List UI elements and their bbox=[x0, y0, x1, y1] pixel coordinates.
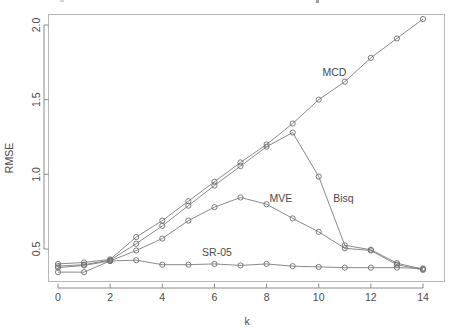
x-tick-label: 6 bbox=[212, 291, 218, 303]
y-tick-label: 2.0 bbox=[30, 18, 42, 33]
rmse-vs-k-line-chart: 0.51.01.52.0 02468101214 MCDBisqMVESR-05… bbox=[0, 0, 453, 331]
x-tick-label: 4 bbox=[159, 291, 165, 303]
y-tick-label: 0.5 bbox=[30, 242, 42, 257]
chart-figure: 0.51.01.52.0 02468101214 MCDBisqMVESR-05… bbox=[0, 0, 453, 331]
x-tick-label: 14 bbox=[417, 291, 429, 303]
series-label-mcd: MCD bbox=[322, 66, 346, 78]
y-tick-label: 1.0 bbox=[30, 167, 42, 182]
x-tick-label: 2 bbox=[107, 291, 113, 303]
y-axis-title: RMSE bbox=[3, 143, 15, 173]
x-tick-label: 8 bbox=[264, 291, 270, 303]
x-axis-title: k bbox=[244, 315, 250, 327]
series-label-sr-05: SR-05 bbox=[202, 246, 232, 258]
x-tick-label: 12 bbox=[365, 291, 377, 303]
x-tick-label: 10 bbox=[313, 291, 325, 303]
x-tick-label: 0 bbox=[55, 291, 61, 303]
series-label-bisq: Bisq bbox=[333, 192, 354, 204]
series-label-mve: MVE bbox=[270, 192, 293, 204]
y-tick-label: 1.5 bbox=[30, 92, 42, 107]
